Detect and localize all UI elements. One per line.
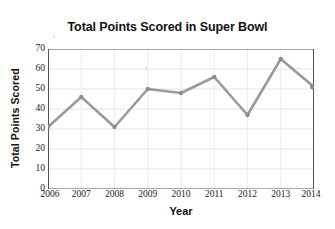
y-tick-label: 70 [36,44,46,54]
y-axis-label: Total Points Scored [8,48,22,188]
y-tick-label: 20 [36,144,46,154]
chart-container: Total Points Scored in Super Bowl Total … [0,0,335,229]
x-tick-label: 2009 [138,190,157,200]
line-chart-svg [48,49,314,189]
data-point-2008 [112,125,116,129]
y-axis-tick-labels: 70 60 50 40 30 20 10 0 [26,49,45,189]
x-axis-tick-labels: 2006 2007 2008 2009 2010 2011 2012 2013 … [48,190,314,204]
y-tick-label: 50 [36,84,46,94]
x-tick-label: 2007 [72,190,91,200]
data-point-2010 [179,91,183,95]
chart-title: Total Points Scored in Super Bowl [0,20,335,34]
data-point-2009 [146,87,150,91]
data-point-2012 [245,113,249,117]
data-point-2013 [279,57,283,61]
x-tick-label: 2008 [105,190,124,200]
y-tick-label: 40 [36,104,46,114]
plot-area [48,49,314,189]
image-artifact-speck [53,36,55,38]
x-tick-label: 2011 [205,190,224,200]
y-tick-label: 60 [36,64,46,74]
y-tick-label: 10 [36,164,46,174]
x-axis-label: Year [48,205,314,217]
data-point-2007 [79,95,83,99]
x-tick-label: 2014 [302,190,321,200]
x-tick-label: 2013 [271,190,290,200]
x-tick-label: 2006 [41,190,60,200]
data-point-2011 [212,75,216,79]
x-tick-label: 2010 [172,190,191,200]
x-tick-label: 2012 [238,190,257,200]
y-tick-label: 30 [36,124,46,134]
data-point-2014 [310,85,314,89]
